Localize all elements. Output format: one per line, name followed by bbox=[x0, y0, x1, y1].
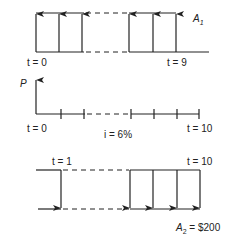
bottom-end-label: t = 10 bbox=[187, 156, 213, 167]
middle-end-label: t = 10 bbox=[187, 123, 213, 134]
interest-rate-label: i = 6% bbox=[104, 129, 132, 140]
top-start-label: t = 0 bbox=[27, 57, 47, 68]
bottom-cash-flow-series: t = 1 t = 10 A2 = $200 bbox=[36, 156, 221, 235]
up-arrow-icons bbox=[36, 14, 176, 52]
p-axis-label: P bbox=[20, 78, 27, 89]
down-arrow-icons bbox=[61, 170, 200, 208]
a2-label: A2 = $200 bbox=[175, 222, 221, 235]
middle-start-label: t = 0 bbox=[27, 123, 47, 134]
bottom-start-label: t = 1 bbox=[52, 156, 72, 167]
cash-flow-diagram: A1 t = 0 t = 9 P t = 0 i = 6% t = 10 t =… bbox=[0, 0, 231, 239]
middle-timeline: P t = 0 i = 6% t = 10 bbox=[20, 78, 213, 140]
a1-label: A1 bbox=[192, 13, 204, 26]
top-end-label: t = 9 bbox=[167, 57, 187, 68]
top-cash-flow-series: A1 t = 0 t = 9 bbox=[27, 13, 209, 68]
